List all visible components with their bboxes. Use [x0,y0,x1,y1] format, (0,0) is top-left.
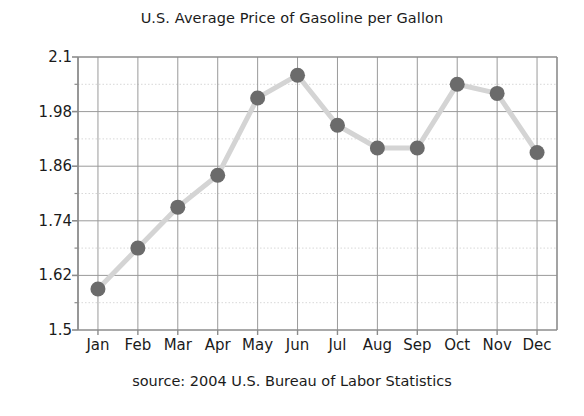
plot-area [78,57,557,330]
tick-marks [72,57,537,335]
data-point [330,118,345,133]
series-line [98,75,537,289]
x-tick-label: Nov [482,336,511,354]
x-tick-label: Mar [164,336,192,354]
data-point [170,200,185,215]
data-point [450,77,465,92]
x-tick-label: Feb [125,336,152,354]
x-tick-label: Oct [444,336,470,354]
data-point [130,241,145,256]
chart-caption: source: 2004 U.S. Bureau of Labor Statis… [0,373,584,389]
x-tick-label: Jul [328,336,346,354]
data-point [410,141,425,156]
chart-figure: U.S. Average Price of Gasoline per Gallo… [0,0,584,416]
data-point [210,168,225,183]
x-tick-label: Sep [403,336,431,354]
minor-gridlines [78,84,557,302]
data-point [250,90,265,105]
data-point [290,68,305,83]
x-tick-label: Dec [523,336,552,354]
x-tick-label: Jun [286,336,309,354]
x-tick-label: Jan [86,336,109,354]
x-tick-label: May [242,336,273,354]
x-tick-label: Apr [205,336,231,354]
data-point [530,145,545,160]
data-point [90,282,105,297]
x-axis: JanFebMarAprMayJunJulAugSepOctNovDec [78,336,557,362]
data-point [490,86,505,101]
data-point [370,141,385,156]
x-tick-label: Aug [363,336,392,354]
